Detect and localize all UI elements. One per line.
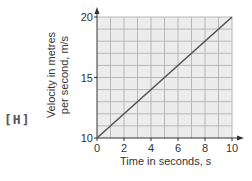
x-tick-label: 8 — [202, 142, 208, 154]
x-axis-label: Time in seconds, s — [120, 155, 211, 167]
y-axis-arrow-icon — [95, 7, 100, 14]
x-tick-label: 10 — [226, 142, 238, 154]
x-tick-label: 0 — [94, 142, 100, 154]
x-tick-label: 6 — [175, 142, 181, 154]
y-tick-label: 20 — [81, 11, 93, 23]
x-tick-label: 2 — [121, 142, 127, 154]
y-tick-label: 10 — [81, 132, 93, 144]
x-axis-arrow-icon — [237, 136, 244, 141]
x-tick-label: 4 — [148, 142, 154, 154]
velocity-time-chart: 0246810101520 — [0, 0, 252, 181]
y-tick-label: 15 — [81, 72, 93, 84]
